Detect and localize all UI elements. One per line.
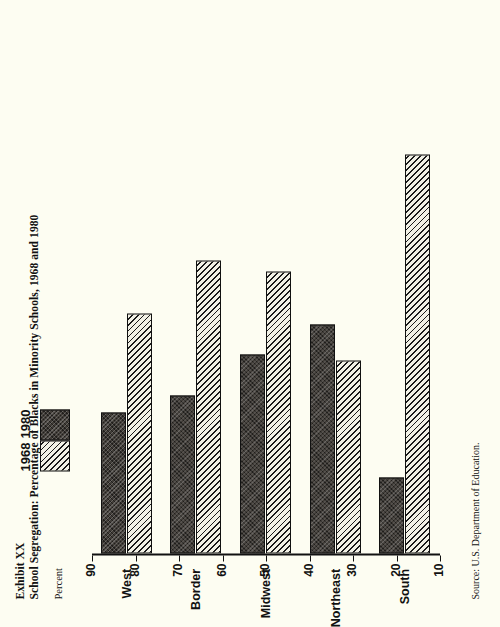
source-note: Source: U.S. Department of Education. <box>470 442 481 599</box>
axis-tick-label: 10 <box>432 563 446 593</box>
legend-label-1968: 1968 <box>18 442 33 471</box>
bar-chart-plot: 908070605040302010 SouthNortheastMidwest… <box>92 85 440 555</box>
axis-tick <box>310 555 311 561</box>
bar-1980 <box>170 395 195 554</box>
axis-label-percent: Percent <box>53 568 64 600</box>
bar-group: Northeast <box>301 83 371 553</box>
axis-tick <box>179 555 180 561</box>
category-label: Midwest <box>259 559 273 617</box>
bar-1968 <box>127 313 152 554</box>
legend-swatch-1980 <box>40 409 70 440</box>
axis-tick-label: 40 <box>302 563 316 593</box>
bar-1980 <box>240 354 265 554</box>
category-label: South <box>398 559 412 603</box>
axis-tick-label: 70 <box>171 563 185 593</box>
bar-group: South <box>370 83 440 553</box>
bar-1968 <box>336 360 361 554</box>
axis-tick <box>353 555 354 561</box>
axis-tick <box>440 555 441 561</box>
bar-group: Midwest <box>231 83 301 553</box>
bar-1980 <box>310 324 335 553</box>
bar-group: Border <box>162 83 232 553</box>
exhibit-label: Exhibit XX <box>14 542 26 599</box>
exhibit-title: School Segregation: Percentage of Blacks… <box>28 214 40 599</box>
legend-label-1980: 1980 <box>18 409 33 438</box>
bar-1968 <box>196 260 221 554</box>
category-label: Border <box>189 559 203 609</box>
bar-1980 <box>101 412 126 553</box>
bar-1968 <box>266 271 291 553</box>
bar-group: West <box>92 83 162 553</box>
axis-tick <box>136 555 137 561</box>
axis-tick <box>92 555 93 561</box>
bar-1980 <box>379 477 404 553</box>
axis-tick-label: 90 <box>84 563 98 593</box>
axis-tick <box>223 555 224 561</box>
category-label: Northeast <box>329 559 343 626</box>
legend-swatch-1968 <box>40 440 70 471</box>
axis-tick-label: 60 <box>215 563 229 593</box>
axis-tick-label: 30 <box>345 563 359 593</box>
category-label: West <box>120 559 134 598</box>
bar-1968 <box>405 154 430 554</box>
